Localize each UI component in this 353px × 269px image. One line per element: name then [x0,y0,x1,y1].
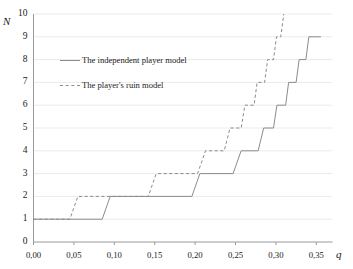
x-axis-tick-label: 0,10 [94,251,134,260]
legend-line-solid-icon [60,60,80,61]
plot-area [0,0,353,269]
legend-item-independent-player-model: The independent player model [60,52,250,69]
x-axis-tick-label: 0,20 [175,251,215,260]
x-axis-tick-label: 0,30 [256,251,296,260]
x-axis-tick-label: 0,35 [296,251,336,260]
y-axis-tick-label: 9 [6,32,28,42]
x-axis-tick-label: 0,25 [216,251,256,260]
y-axis-tick-label: 4 [6,146,28,156]
legend-item-label: The player's ruin model [82,81,164,90]
y-axis-tick-label: 7 [6,77,28,87]
chart-figure: N q 012345678910 0,000,050,100,150,200,2… [0,0,353,269]
x-axis-label: q [336,249,342,260]
y-axis-tick-label: 0 [6,237,28,247]
y-axis-tick-label: 2 [6,191,28,201]
y-axis-tick-label: 1 [6,214,28,224]
y-axis-tick-label: 3 [6,169,28,179]
legend-item-label: The independent player model [82,56,187,65]
legend-line-dashed-icon [60,85,80,86]
y-axis-tick-label: 8 [6,55,28,65]
legend-item-players-ruin-model: The player's ruin model [60,77,250,94]
x-axis-tick-label: 0,05 [54,251,94,260]
chart-legend: The independent player model The player'… [60,52,250,94]
y-axis-tick-label: 5 [6,123,28,133]
x-axis-tick-label: 0,15 [135,251,175,260]
series-line-players-ruin-model [34,14,284,219]
y-axis-tick-label: 6 [6,100,28,110]
x-axis-tick-label: 0,00 [14,251,54,260]
y-axis-tick-label: 10 [6,9,28,19]
